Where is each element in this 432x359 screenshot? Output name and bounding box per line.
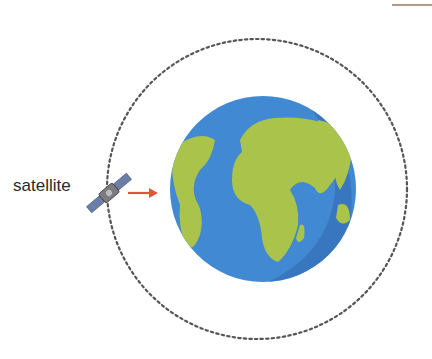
arrow-icon xyxy=(128,188,158,198)
earth-icon xyxy=(115,80,356,292)
satellite-icon xyxy=(85,172,133,215)
satellite-label: satellite xyxy=(13,176,71,196)
